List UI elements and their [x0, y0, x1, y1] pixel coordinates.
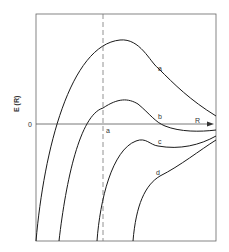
zero-label: 0	[28, 121, 32, 128]
x-axis-label: R	[195, 117, 200, 124]
axis-arrow-icon	[207, 122, 214, 127]
curve-a-label: a	[158, 65, 162, 72]
curve-c-label: c	[158, 138, 162, 145]
energy-diagram: a b c d a R 0 E (R)	[0, 0, 229, 252]
curve-d	[133, 140, 216, 241]
curve-b-label: b	[158, 113, 162, 120]
dashed-marker-label: a	[106, 127, 110, 134]
plot-frame	[36, 14, 216, 241]
y-axis-label: E (R)	[13, 96, 21, 112]
diagram-canvas: a b c d a R 0 E (R)	[0, 0, 229, 252]
curve-b	[59, 100, 216, 241]
curve-d-label: d	[156, 169, 160, 176]
